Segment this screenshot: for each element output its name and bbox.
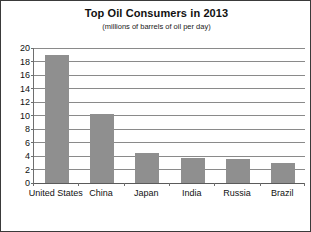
y-tick-label: 8 xyxy=(25,125,30,134)
chart-header: Top Oil Consumers in 2013 (millions of b… xyxy=(1,7,311,32)
x-tick-mark xyxy=(169,183,170,186)
y-tick-label: 6 xyxy=(25,138,30,147)
chart-subtitle: (millions of barrels of oil per day) xyxy=(1,21,311,32)
bar-series xyxy=(34,48,305,183)
plot-wrapper: 02468101214161820 xyxy=(33,48,305,183)
x-axis-labels: United StatesChinaJapanIndiaRussiaBrazil xyxy=(33,188,305,228)
y-tick-label: 4 xyxy=(25,152,30,161)
y-tick-label: 2 xyxy=(25,165,30,174)
bar xyxy=(181,158,205,183)
x-tick-label: Brazil xyxy=(253,188,311,199)
chart-figure: Top Oil Consumers in 2013 (millions of b… xyxy=(0,0,311,232)
x-tick-mark xyxy=(78,183,79,186)
x-axis-line xyxy=(33,183,305,184)
y-tick-label: 12 xyxy=(20,98,30,107)
y-tick-label: 0 xyxy=(25,179,30,188)
y-tick-label: 10 xyxy=(20,111,30,120)
bar xyxy=(45,55,69,183)
chart-title: Top Oil Consumers in 2013 xyxy=(1,7,311,20)
y-tick-label: 14 xyxy=(20,84,30,93)
x-tick-mark xyxy=(260,183,261,186)
x-tick-mark xyxy=(124,183,125,186)
bar xyxy=(271,163,295,183)
x-tick-mark xyxy=(33,183,34,186)
x-tick-mark xyxy=(214,183,215,186)
y-tick-label: 16 xyxy=(20,71,30,80)
bar xyxy=(135,153,159,183)
y-tick-label: 20 xyxy=(20,44,30,53)
bar xyxy=(226,159,250,183)
bar xyxy=(90,114,114,183)
y-tick-label: 18 xyxy=(20,57,30,66)
x-tick-mark xyxy=(304,183,305,186)
plot-area: 02468101214161820 xyxy=(33,48,305,183)
